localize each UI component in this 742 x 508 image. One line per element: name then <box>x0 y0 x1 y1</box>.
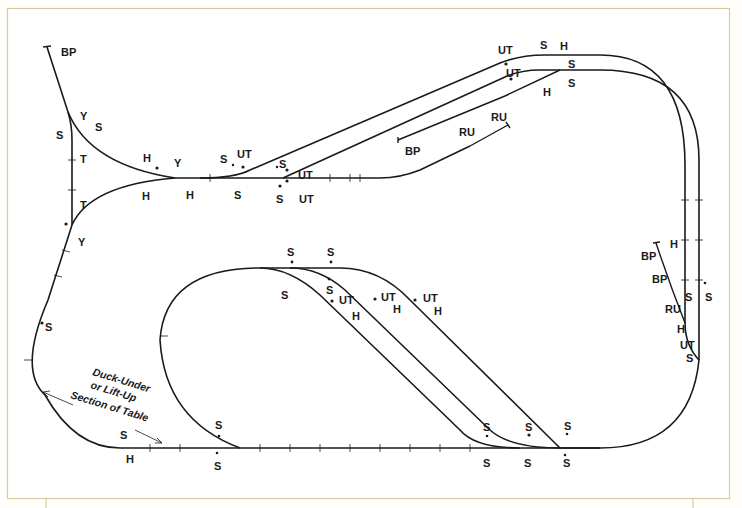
table-frame <box>8 9 730 499</box>
label-h: H <box>393 303 401 315</box>
label-s: S <box>525 421 532 433</box>
label-h: H <box>143 152 151 164</box>
label-y: Y <box>174 157 182 169</box>
label-bp-yard: BP <box>61 46 76 58</box>
label-ut: UT <box>506 67 521 79</box>
label-s: S <box>220 153 227 165</box>
label-ut: UT <box>381 291 396 303</box>
label-s: S <box>287 246 294 258</box>
label-s: S <box>279 158 286 170</box>
label-h: H <box>352 310 360 322</box>
label-y: Y <box>80 110 88 122</box>
label-s: S <box>95 121 102 133</box>
label-h: H <box>142 190 150 202</box>
label-h: H <box>434 305 442 317</box>
label-h: H <box>543 86 551 98</box>
label-s: S <box>524 457 531 469</box>
label-s: S <box>281 289 288 301</box>
label-bp: BP <box>652 273 667 285</box>
label-s: S <box>686 352 693 364</box>
label-ut: UT <box>339 294 354 306</box>
label-s: S <box>685 291 692 303</box>
label-s: S <box>705 291 712 303</box>
label-t: T <box>80 153 87 165</box>
label-s: S <box>483 421 490 433</box>
track-plan-diagram: BP Y S S T T Y H Y H H S S UT S S UT S U… <box>0 0 742 508</box>
label-s: S <box>568 77 575 89</box>
label-h: H <box>126 453 134 465</box>
label-ut: UT <box>498 44 513 56</box>
label-ut: UT <box>298 169 313 181</box>
label-s: S <box>56 129 63 141</box>
label-ru: RU <box>491 111 507 123</box>
label-bp: BP <box>405 145 420 157</box>
label-s: S <box>483 457 490 469</box>
label-h: H <box>670 238 678 250</box>
label-bp: BP <box>641 250 656 262</box>
label-ut: UT <box>423 292 438 304</box>
label-s: S <box>563 457 570 469</box>
label-ut: UT <box>680 339 695 351</box>
label-s: S <box>120 429 127 441</box>
label-t: T <box>80 199 87 211</box>
label-s: S <box>326 284 333 296</box>
label-h: H <box>186 189 194 201</box>
label-s: S <box>540 39 547 51</box>
label-y: Y <box>78 236 86 248</box>
label-ut: UT <box>237 148 252 160</box>
label-h: H <box>560 40 568 52</box>
label-s: S <box>327 246 334 258</box>
label-s: S <box>564 420 571 432</box>
label-s: S <box>568 58 575 70</box>
label-s: S <box>215 419 222 431</box>
label-s: S <box>45 321 52 333</box>
label-h: H <box>677 323 685 335</box>
label-ru: RU <box>665 303 681 315</box>
label-s: S <box>276 193 283 205</box>
label-ut: UT <box>299 193 314 205</box>
label-s: S <box>214 460 221 472</box>
label-s: S <box>234 189 241 201</box>
label-ru: RU <box>459 126 475 138</box>
